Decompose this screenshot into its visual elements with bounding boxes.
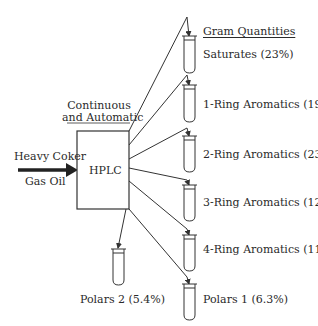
fraction-label-3-ring: 3-Ring Aromatics (12%) <box>203 196 318 209</box>
fraction-label-2-ring: 2-Ring Aromatics (23%) <box>203 148 318 161</box>
tube-2-ring <box>182 136 197 172</box>
input-label-line1: Heavy Coker <box>14 150 86 163</box>
fraction-label-1-ring: 1-Ring Aromatics (19%) <box>203 98 318 111</box>
hplc-label: HPLC <box>89 164 122 177</box>
fraction-label-polars-2: Polars 2 (5.4%) <box>80 293 165 306</box>
fraction-label-4-ring: 4-Ring Aromatics (11%) <box>203 243 318 256</box>
input-label-line2: Gas Oil <box>25 175 66 188</box>
tube-polars-1 <box>182 284 197 320</box>
tube-polars-2 <box>111 249 126 285</box>
tube-1-ring <box>182 85 197 122</box>
tube-4-ring <box>182 235 197 271</box>
fraction-label-polars-1: Polars 1 (6.3%) <box>203 293 288 306</box>
tube-3-ring <box>182 185 197 221</box>
fraction-label-saturates: Saturates (23%) <box>203 48 294 61</box>
tube-saturates <box>182 36 197 73</box>
process-note-line2: and Automatic <box>62 111 134 124</box>
gram-quantities-title: Gram Quantities <box>203 25 295 38</box>
